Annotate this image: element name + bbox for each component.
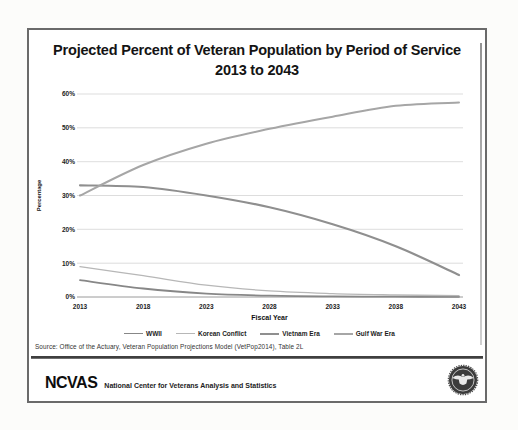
ncvas-logo: NCVAS — [45, 374, 97, 392]
legend-line-swatch — [124, 333, 143, 334]
chart-title-block: Projected Percent of Veteran Population … — [33, 40, 481, 81]
series-line-vietnam-era — [80, 185, 459, 275]
scanned-page: { "chart_data": { "type": "line", "title… — [0, 0, 518, 430]
scan-artifact-line — [480, 43, 482, 345]
va-seal-icon — [446, 363, 480, 397]
legend-label: WWII — [146, 330, 162, 337]
chart-legend: WWII Korean Conflict Vietnam Era Gulf Wa… — [51, 330, 468, 337]
legend-line-swatch — [260, 333, 279, 335]
x-tick-label: 2023 — [199, 303, 214, 310]
x-tick-label: 2033 — [325, 303, 340, 310]
series-line-korean-conflict — [80, 267, 459, 296]
y-axis-title: Percentage — [36, 179, 42, 211]
legend-label: Gulf War Era — [356, 330, 395, 337]
y-tick-label: 30% — [62, 192, 75, 199]
legend-item-wwii: WWII — [124, 330, 162, 337]
ncvas-org-name: National Center for Veterans Analysis an… — [104, 382, 276, 389]
series-line-wwii — [80, 280, 459, 297]
source-citation: Source: Office of the Actuary, Veteran P… — [35, 343, 303, 350]
chart-title: Projected Percent of Veteran Population … — [33, 40, 481, 60]
footer-branding: NCVAS National Center for Veterans Analy… — [45, 374, 276, 392]
legend-item-vietnam-era: Vietnam Era — [260, 330, 319, 337]
footer-divider — [31, 356, 483, 359]
y-tick-label: 0% — [66, 293, 76, 300]
legend-label: Korean Conflict — [198, 330, 246, 337]
x-tick-label: 2013 — [73, 303, 88, 310]
legend-label: Vietnam Era — [282, 330, 319, 337]
y-tick-label: 10% — [62, 260, 75, 267]
y-tick-label: 50% — [62, 124, 75, 131]
chart-subtitle: 2013 to 2043 — [33, 60, 481, 80]
y-tick-label: 60% — [62, 90, 75, 97]
x-axis-title: Fiscal Year — [251, 314, 288, 321]
legend-line-swatch — [176, 333, 195, 334]
x-tick-label: 2038 — [389, 303, 404, 310]
series-line-gulf-war-era — [80, 103, 459, 196]
y-tick-label: 20% — [62, 226, 75, 233]
legend-item-korean-conflict: Korean Conflict — [176, 330, 246, 337]
legend-line-swatch — [334, 333, 353, 335]
x-tick-label: 2043 — [452, 303, 467, 310]
x-tick-label: 2018 — [136, 303, 151, 310]
slide-frame: Projected Percent of Veteran Population … — [27, 28, 487, 403]
legend-item-gulf-war-era: Gulf War Era — [334, 330, 395, 337]
x-tick-label: 2028 — [262, 303, 277, 310]
y-tick-label: 40% — [62, 158, 75, 165]
